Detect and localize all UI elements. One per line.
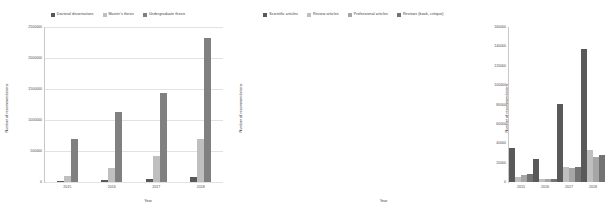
bar-masters-2018 (197, 139, 204, 182)
bar-group-2015: 2015 (45, 27, 90, 182)
bars-layer-theses: 2015 2016 2017 20 (45, 27, 223, 182)
y-tick-label: 120000 (494, 65, 506, 69)
legend-label-professional-articles: Professional articles (354, 13, 388, 17)
y-tick-label: 500000 (30, 150, 42, 154)
y-tick-label: 140000 (494, 46, 506, 50)
legend-item-scientific-articles: Scientific articles (263, 13, 298, 17)
y-tick-label: 60000 (496, 123, 506, 127)
bar-undergraduate-2017 (160, 93, 167, 182)
x-tick-label: 2016 (541, 186, 549, 190)
legend-label-masters-thesis: Master's thesis (109, 13, 134, 17)
x-tick-label: 2017 (152, 186, 160, 190)
legend-swatch-professional-articles (348, 13, 352, 17)
plot-area-theses: 0 500000 1000000 1500000 2000000 2500000… (44, 27, 223, 183)
y-tick-label: 40000 (496, 143, 506, 147)
y-tick-label: 20000 (496, 162, 506, 166)
x-axis-title-theses: Year (0, 200, 266, 204)
bar-group-2015: 2015 (509, 27, 533, 182)
bar-doctoral-2017 (146, 179, 153, 182)
bar-masters-2017 (153, 156, 160, 182)
legend-label-scientific-articles: Scientific articles (269, 13, 298, 17)
legend-item-masters-thesis: Master's thesis (103, 13, 134, 17)
x-tick-label: 2018 (197, 186, 205, 190)
legend-item-reviews-book-critique: Reviews (book, critique) (397, 13, 444, 17)
x-tick-label: 2015 (63, 186, 71, 190)
gridline: 0 (45, 182, 223, 183)
y-tick-label: 2500000 (28, 26, 42, 30)
bar-doctoral-2018 (190, 177, 197, 182)
x-tick-label: 2018 (589, 186, 597, 190)
y-tick-label: 0 (40, 181, 42, 185)
legend-articles: Scientific articles Review articles Prof… (236, 9, 471, 20)
legend-label-review-articles: Review articles (313, 13, 339, 17)
bar-undergraduate-2015 (71, 139, 78, 182)
bar-reviews-book-2018 (599, 155, 605, 182)
legend-theses: Doctoral dissertations Master's thesis U… (0, 9, 236, 20)
y-tick-label: 0 (504, 181, 506, 185)
legend-swatch-masters-thesis (103, 13, 107, 17)
legend-item-doctoral-dissertations: Doctoral dissertations (51, 13, 94, 17)
y-tick-label: 2000000 (28, 57, 42, 61)
y-tick-label: 160000 (494, 26, 506, 30)
legend-swatch-doctoral-dissertations (51, 13, 55, 17)
legend-item-professional-articles: Professional articles (348, 13, 388, 17)
legend-label-doctoral-dissertations: Doctoral dissertations (57, 13, 94, 17)
bar-group-2018: 2018 (179, 27, 224, 182)
legend-label-reviews-book-critique: Reviews (book, critique) (403, 13, 444, 17)
legend-item-undergraduate-thesis: Undergraduate thesis (143, 13, 185, 17)
y-tick-label: 1500000 (28, 88, 42, 92)
chart-panel-theses: Doctoral dissertations Master's thesis U… (0, 0, 236, 215)
legend-item-review-articles: Review articles (307, 13, 339, 17)
y-axis-title-theses: Number of recommendations (6, 64, 10, 152)
legend-swatch-review-articles (307, 13, 311, 17)
bar-group-2017: 2017 (134, 27, 179, 182)
y-tick-label: 100000 (494, 84, 506, 88)
bar-group-2018: 2018 (581, 27, 605, 182)
bar-masters-2015 (64, 176, 71, 182)
y-tick-label: 1000000 (28, 119, 42, 123)
bar-undergraduate-2016 (115, 112, 122, 182)
bar-group-2016: 2016 (533, 27, 557, 182)
bar-masters-2016 (108, 168, 115, 182)
x-axis-title-articles: Year (236, 200, 501, 204)
x-tick-label: 2017 (565, 186, 573, 190)
legend-label-undergraduate-thesis: Undergraduate thesis (149, 13, 185, 17)
x-tick-label: 2016 (108, 186, 116, 190)
bar-undergraduate-2018 (204, 38, 211, 182)
legend-swatch-reviews-book-critique (397, 13, 401, 17)
bar-doctoral-2015 (57, 181, 64, 182)
bar-group-2016: 2016 (90, 27, 135, 182)
chart-panel-articles: Scientific articles Review articles Prof… (236, 0, 471, 215)
bar-doctoral-2016 (101, 180, 108, 182)
legend-swatch-scientific-articles (263, 13, 267, 17)
y-tick-label: 80000 (496, 104, 506, 108)
legend-swatch-undergraduate-thesis (143, 13, 147, 17)
x-tick-label: 2015 (517, 186, 525, 190)
plot-area-articles: 0 20000 40000 60000 80000 100000 120000 … (508, 27, 509, 183)
bar-group-2017: 2017 (557, 27, 581, 182)
